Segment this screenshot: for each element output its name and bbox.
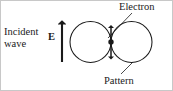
- pattern-label: Pattern: [104, 75, 134, 86]
- incident-label-line1: Incident: [4, 26, 38, 37]
- electron-label: Electron: [119, 1, 155, 12]
- electron-dot-icon: [108, 39, 113, 44]
- incident-label-line2: wave: [4, 38, 26, 49]
- electric-field-label: E: [48, 31, 55, 42]
- figure-container: Incident wave E Electron Pattern: [0, 0, 173, 91]
- figure-border: [1, 1, 173, 91]
